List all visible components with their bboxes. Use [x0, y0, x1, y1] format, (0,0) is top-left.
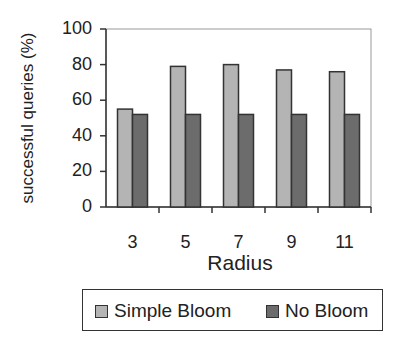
bar [224, 65, 239, 207]
x-tick-label: 3 [113, 232, 153, 253]
x-tick-label: 7 [219, 232, 259, 253]
legend-swatch-icon [95, 305, 108, 318]
bar [330, 72, 345, 207]
legend-item-simple-bloom: Simple Bloom [95, 300, 231, 322]
bar [345, 114, 360, 207]
x-axis-label: Radius [180, 251, 300, 275]
legend-swatch-icon [266, 305, 279, 318]
bar [292, 114, 307, 207]
bar [186, 114, 201, 207]
x-tick-label: 5 [166, 232, 206, 253]
legend-label: No Bloom [285, 300, 368, 322]
legend-item-no-bloom: No Bloom [266, 300, 368, 322]
legend-label: Simple Bloom [114, 300, 231, 322]
bar [171, 66, 186, 207]
bar [239, 114, 254, 207]
legend: Simple Bloom No Bloom [82, 289, 383, 331]
x-tick-label: 9 [272, 232, 312, 253]
bar [277, 70, 292, 207]
bar [133, 114, 148, 207]
chart-figure: successful queries (%) 020406080100 3579… [0, 0, 395, 344]
bar [118, 109, 133, 207]
x-tick-label: 11 [325, 232, 365, 253]
